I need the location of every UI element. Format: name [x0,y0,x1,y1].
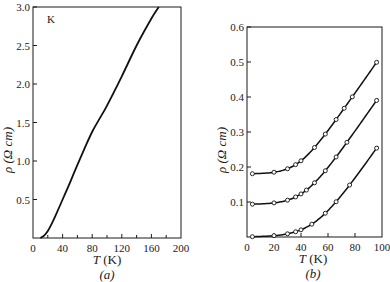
panel-b: 020406080100 0.10.20.30.40.50.6 ρ (Ω cm)… [214,21,390,281]
y-tick-label: 2.5 [16,40,30,52]
data-point-marker [313,181,317,185]
data-point-marker [294,230,298,234]
y-tick-label: 0.5 [230,56,244,68]
x-tick-label: 200 [173,242,190,254]
data-point-marker [286,167,290,171]
data-point-marker [323,211,327,215]
data-point-marker [323,169,327,173]
data-point-marker [272,234,276,238]
y-tick-label: 2.0 [16,78,30,90]
series-curve-upper [252,60,378,173]
annotation-k: K [47,13,55,25]
data-point-marker [304,188,308,192]
plot-frame-b [247,27,382,237]
plot-frame-a [33,7,181,238]
resistivity-curves-b [250,60,378,238]
data-point-marker [250,172,254,176]
x-tick-label: 0 [244,241,250,253]
x-tick-label: 100 [374,241,390,253]
data-point-marker [345,140,349,144]
data-point-marker [294,195,298,199]
y-tick-label: 0.6 [230,21,244,33]
y-ticks-b: 0.10.20.30.40.50.6 [230,21,251,208]
series-curve-middle [252,99,378,205]
x-tick-label: 160 [143,242,160,254]
x-tick-label: 40 [57,242,69,254]
data-point-marker [342,106,346,110]
x-tick-label: 20 [269,241,281,253]
figure: 04080120160200 0.51.01.52.02.53.0 K ρ (Ω… [0,0,390,282]
x-tick-label: 80 [350,241,362,253]
panel-a: 04080120160200 0.51.01.52.02.53.0 K ρ (Ω… [0,1,190,282]
data-point-marker [310,222,314,226]
data-point-marker [350,95,354,99]
y-tick-label: 0.1 [230,196,244,208]
data-point-marker [286,198,290,202]
data-point-marker [286,232,290,236]
y-tick-label: 1.5 [16,117,30,129]
y-tick-label: 0.4 [230,91,244,103]
data-point-marker [250,235,254,239]
y-tick-label: 0.5 [16,194,30,206]
caption-a: (a) [99,267,114,282]
data-point-marker [375,98,379,102]
y-tick-label: 0.3 [230,126,244,138]
y-axis-label-b: ρ (Ω cm) [214,127,229,174]
y-tick-label: 0.2 [230,161,244,173]
x-axis-label-a: T (K) [93,252,122,267]
data-point-marker [299,228,303,232]
data-point-marker [299,192,303,196]
series-curve-lower [252,146,378,236]
y-ticks-a: 0.51.01.52.02.53.0 [16,1,37,206]
resistivity-curve-a [40,7,158,238]
x-ticks-a: 04080120160200 [30,234,190,254]
data-point-marker [294,163,298,167]
y-tick-label: 1.0 [16,155,30,167]
data-point-marker [313,145,317,149]
data-point-marker [348,183,352,187]
data-point-marker [250,202,254,206]
y-axis-label-a: ρ (Ω cm) [0,127,15,174]
data-point-marker [334,155,338,159]
data-point-marker [334,200,338,204]
data-point-marker [272,201,276,205]
data-point-marker [299,159,303,163]
y-tick-label: 3.0 [16,1,30,13]
data-point-marker [272,170,276,174]
data-point-marker [375,60,379,64]
x-tick-label: 0 [30,242,36,254]
data-point-marker [334,118,338,122]
data-point-marker [323,132,327,136]
data-point-marker [375,146,379,150]
caption-b: (b) [305,266,320,281]
x-axis-label-b: T (K) [299,251,328,266]
